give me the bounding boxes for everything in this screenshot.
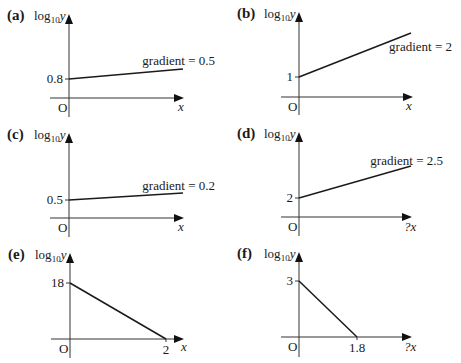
data-line xyxy=(299,166,411,198)
origin-label: O xyxy=(59,341,68,356)
origin-label: O xyxy=(288,99,297,114)
gradient-label: gradient = 2.5 xyxy=(370,153,443,168)
x-intercept-label: 2 xyxy=(163,342,170,357)
y-axis-title: log10y xyxy=(264,6,296,23)
origin-label: O xyxy=(288,339,297,354)
panel-label: (d) xyxy=(237,125,255,142)
data-line xyxy=(70,283,166,339)
y-axis-arrow-icon xyxy=(295,252,303,262)
x-axis-label: x xyxy=(177,219,184,234)
gradient-label: gradient = 2 xyxy=(389,39,452,54)
y-intercept-label: 0.8 xyxy=(47,71,63,86)
panel-d: (d)log10yO2gradient = 2.5?x xyxy=(237,125,443,236)
y-axis-title: log10y xyxy=(264,246,296,263)
panel-label: (c) xyxy=(7,126,24,143)
y-intercept-label: 1 xyxy=(287,69,294,84)
panel-label: (b) xyxy=(237,5,255,22)
y-axis-title: log10y xyxy=(34,127,66,144)
x-axis-label: ?x xyxy=(404,219,417,234)
panel-c: (c)log10yO0.5gradient = 0.2x xyxy=(7,126,215,237)
gradient-label: gradient = 0.2 xyxy=(142,178,215,193)
y-axis-arrow-icon xyxy=(295,12,303,22)
y-axis-title: log10y xyxy=(264,126,296,143)
panel-a: (a)log10yO0.8gradient = 0.5x xyxy=(7,7,215,117)
panel-label: (f) xyxy=(237,245,252,262)
y-intercept-label: 18 xyxy=(51,275,64,290)
y-intercept-label: 3 xyxy=(287,273,294,288)
panel-e: (e)log10yO182x xyxy=(8,246,187,358)
graph-figure: (a)log10yO0.8gradient = 0.5x(b)log10yO1g… xyxy=(0,0,461,363)
x-axis-label: ?x xyxy=(404,339,417,354)
x-axis-label: x xyxy=(180,339,187,354)
y-intercept-label: 2 xyxy=(287,190,294,205)
panel-label: (e) xyxy=(8,246,25,263)
data-line xyxy=(69,69,183,79)
data-line xyxy=(299,281,357,337)
y-axis-arrow-icon xyxy=(295,132,303,142)
y-axis-arrow-icon xyxy=(65,14,73,24)
x-axis-label: x xyxy=(405,98,412,113)
panel-label: (a) xyxy=(7,7,25,24)
origin-label: O xyxy=(288,219,297,234)
data-line xyxy=(69,193,183,200)
x-intercept-label: 1.8 xyxy=(349,340,365,355)
panel-b: (b)log10yO1gradient = 2x xyxy=(237,5,452,115)
y-axis-title: log10y xyxy=(34,8,66,25)
y-axis-arrow-icon xyxy=(65,133,73,143)
y-axis-title: log10y xyxy=(35,247,67,264)
panel-f: (f)log10yO31.8?x xyxy=(237,245,417,357)
y-axis-arrow-icon xyxy=(66,253,74,263)
x-axis-label: x xyxy=(177,99,184,114)
origin-label: O xyxy=(58,220,67,235)
gradient-label: gradient = 0.5 xyxy=(142,53,215,68)
y-intercept-label: 0.5 xyxy=(47,192,63,207)
origin-label: O xyxy=(58,100,67,115)
